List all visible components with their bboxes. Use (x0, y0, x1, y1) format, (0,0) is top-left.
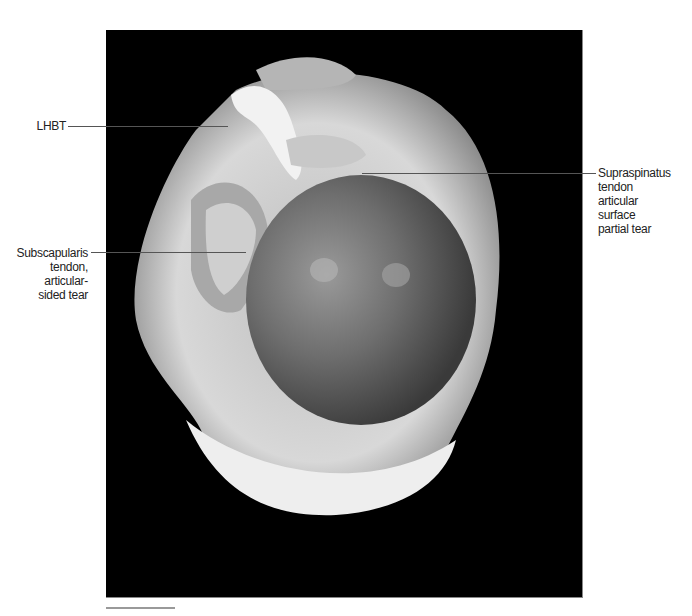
caption-rule (106, 607, 175, 609)
label-subscapularis-line-4: sided tear (0, 288, 88, 302)
label-supraspinatus: Supraspinatus tendon articular surface p… (598, 166, 692, 236)
label-lhbt-text: LHBT (0, 119, 66, 133)
leader-lhbt-line (68, 126, 228, 127)
label-supraspinatus-line-4: surface (598, 208, 692, 222)
label-subscapularis-line-1: Subscapularis (0, 246, 88, 260)
label-supraspinatus-line-1: Supraspinatus (598, 166, 692, 180)
label-subscapularis-line-2: tendon, (0, 260, 88, 274)
label-supraspinatus-line-2: tendon (598, 180, 692, 194)
label-subscapularis-line-3: articular- (0, 274, 88, 288)
specimen-illustration (106, 30, 582, 597)
label-subscapularis: Subscapularis tendon, articular- sided t… (0, 246, 88, 302)
anatomical-photo (106, 30, 583, 598)
leader-subscapularis (91, 252, 246, 253)
label-supraspinatus-line-3: articular (598, 194, 692, 208)
label-supraspinatus-line-5: partial tear (598, 222, 692, 236)
leader-supraspinatus (362, 173, 596, 174)
